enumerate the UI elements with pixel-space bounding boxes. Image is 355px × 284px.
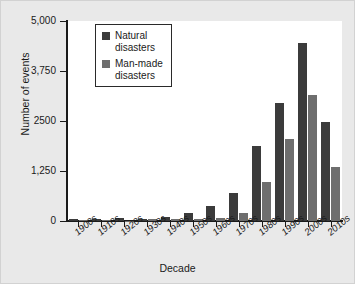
y-tick-label: 0: [0, 215, 56, 226]
y-axis-title: Number of events: [19, 24, 31, 164]
y-tick-mark: [60, 71, 67, 72]
legend-label-natural-disasters: Natural disasters: [115, 30, 155, 53]
bar-1900s-natural: [69, 219, 78, 221]
bar-2010s-man-made: [331, 167, 340, 221]
y-tick-label: 3,750: [0, 65, 56, 76]
y-tick-label: 1,250: [0, 165, 56, 176]
y-tick-mark: [60, 121, 67, 122]
y-tick-label: 2500: [0, 115, 56, 126]
bar-2000s-natural: [298, 43, 307, 221]
legend-item-man-made-disasters: Man-made disasters: [102, 58, 163, 81]
chart-legend: Natural disasters Man-made disasters: [95, 24, 172, 87]
x-axis-title: Decade: [0, 262, 355, 274]
legend-label-man-made-disasters: Man-made disasters: [115, 58, 163, 81]
y-tick-mark: [60, 21, 67, 22]
legend-item-natural-disasters: Natural disasters: [102, 30, 163, 53]
natural-disasters-swatch: [102, 32, 110, 40]
bar-1980s-man-made: [262, 182, 271, 221]
y-tick-label: 5,000: [0, 15, 56, 26]
y-tick-mark: [60, 171, 67, 172]
y-tick-mark: [60, 221, 67, 222]
man-made-disasters-swatch: [102, 60, 110, 68]
bar-1990s-natural: [275, 103, 284, 221]
bar-2000s-man-made: [308, 95, 317, 221]
bar-1990s-man-made: [285, 139, 294, 221]
bar-chart-figure: Number of events 01,25025003,7505,000 19…: [0, 0, 355, 284]
bar-1980s-natural: [252, 146, 261, 221]
bar-2010s-natural: [321, 122, 330, 221]
